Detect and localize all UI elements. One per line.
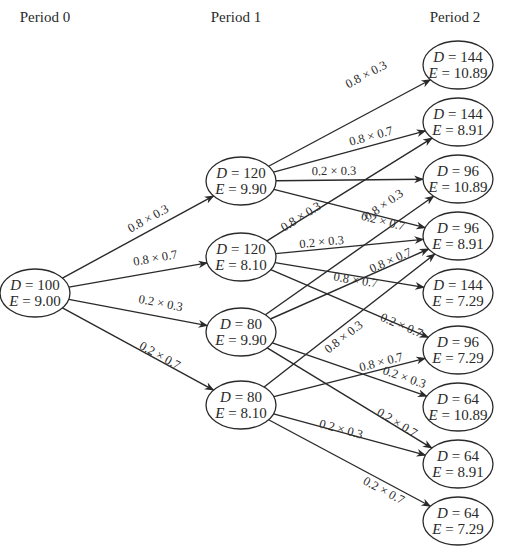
edges: [62, 80, 434, 506]
period-label-1: Period 1: [211, 9, 261, 25]
tree-node-p2_8: D = 64E = 8.91: [423, 440, 493, 488]
tree-node-p1b: D = 120E = 8.10: [206, 233, 276, 281]
edge-labels: 0.8 × 0.30.8 × 0.70.2 × 0.30.2 × 0.70.8 …: [125, 58, 427, 507]
tree-node-p2_3: D = 96E = 10.89: [423, 155, 493, 203]
edge-probability-label: 0.2 × 0.3: [318, 417, 365, 442]
edge-probability-label: 0.8 × 0.7: [132, 247, 178, 268]
edge-probability-label: 0.2 × 0.7: [378, 310, 424, 340]
tree-node-p1c: D = 80E = 9.90: [206, 308, 276, 356]
node-dividend-value: D = 120: [215, 241, 265, 257]
edge-probability-label: 0.8 × 0.3: [343, 58, 389, 91]
node-dividend-value: D = 144: [432, 106, 483, 122]
tree-node-p1d: D = 80E = 8.10: [206, 381, 276, 429]
node-earnings-value: E = 8.91: [431, 236, 483, 252]
node-dividend-value: D = 64: [436, 505, 479, 521]
node-dividend-value: D = 96: [436, 163, 479, 179]
node-dividend-value: D = 144: [432, 277, 483, 293]
tree-node-p2_7: D = 64E = 10.89: [423, 383, 493, 431]
node-earnings-value: E = 8.91: [431, 464, 483, 480]
binomial-tree-diagram: Period 0Period 1Period 2 0.8 × 0.30.8 × …: [0, 0, 509, 552]
node-earnings-value: E = 9.90: [214, 181, 266, 197]
tree-node-p0: D = 100E = 9.00: [0, 269, 70, 317]
node-dividend-value: D = 80: [219, 316, 262, 332]
period-labels: Period 0Period 1Period 2: [20, 9, 480, 25]
tree-node-p2_1: D = 144E = 10.89: [423, 41, 493, 89]
node-earnings-value: E = 8.91: [431, 122, 483, 138]
edge-probability-label: 0.8 × 0.3: [278, 199, 323, 234]
edge-probability-label: 0.2 × 0.3: [312, 164, 357, 178]
node-dividend-value: D = 100: [9, 277, 59, 293]
node-dividend-value: D = 96: [436, 220, 479, 236]
edge-probability-label: 0.2 × 0.3: [299, 233, 345, 251]
node-earnings-value: E = 10.89: [428, 407, 488, 423]
tree-node-p1a: D = 120E = 9.90: [206, 157, 276, 205]
edge-arrow-p1a-p2_3: [276, 179, 423, 180]
node-dividend-value: D = 96: [436, 334, 479, 350]
period-label-2: Period 2: [430, 9, 480, 25]
nodes: D = 100E = 9.00D = 120E = 9.90D = 120E =…: [0, 41, 493, 545]
node-earnings-value: E = 9.00: [8, 293, 60, 309]
node-earnings-value: E = 9.90: [214, 332, 266, 348]
node-earnings-value: E = 7.29: [431, 293, 483, 309]
period-label-0: Period 0: [20, 9, 70, 25]
node-dividend-value: D = 144: [432, 49, 483, 65]
node-dividend-value: D = 120: [215, 165, 265, 181]
tree-node-p2_4: D = 96E = 8.91: [423, 212, 493, 260]
edge-probability-label: 0.2 × 0.3: [138, 292, 184, 314]
edge-arrow-p1a-p2_1: [269, 80, 431, 166]
edge-probability-label: 0.8 × 0.3: [125, 202, 171, 236]
node-earnings-value: E = 7.29: [431, 350, 483, 366]
node-earnings-value: E = 8.10: [214, 257, 266, 273]
node-earnings-value: E = 7.29: [431, 521, 483, 537]
node-earnings-value: E = 10.89: [428, 179, 488, 195]
tree-node-p2_6: D = 96E = 7.29: [423, 326, 493, 374]
tree-node-p2_9: D = 64E = 7.29: [423, 497, 493, 545]
edge-probability-label: 0.8 × 0.7: [367, 245, 413, 276]
node-earnings-value: E = 8.10: [214, 405, 266, 421]
node-dividend-value: D = 64: [436, 448, 479, 464]
node-dividend-value: D = 64: [436, 391, 479, 407]
edge-probability-label: 0.2 × 0.7: [361, 474, 407, 507]
edge-probability-label: 0.2 × 0.7: [374, 405, 419, 440]
tree-node-p2_5: D = 144E = 7.29: [423, 269, 493, 317]
tree-node-p2_2: D = 144E = 8.91: [423, 98, 493, 146]
edge-probability-label: 0.2 × 0.7: [137, 339, 183, 373]
node-earnings-value: E = 10.89: [428, 65, 488, 81]
node-dividend-value: D = 80: [219, 389, 262, 405]
